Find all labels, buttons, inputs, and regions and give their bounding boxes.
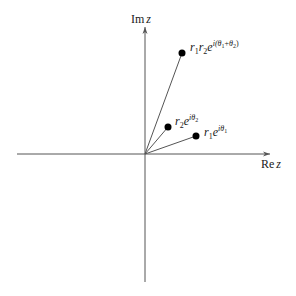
point-z2 <box>165 124 172 131</box>
vector-product <box>145 53 182 154</box>
label-z1: r1eiθ1 <box>204 124 227 141</box>
point-z1 <box>193 133 200 140</box>
imaginary-axis-label: Imz <box>131 12 151 26</box>
label-z2: r2eiθ2 <box>175 113 198 130</box>
label-product: r1r2ei(θ1+θ2) <box>190 39 239 56</box>
complex-plane-diagram: Rez Imz r1eiθ1 r2eiθ2 r1r2ei(θ1+θ2) <box>0 0 296 296</box>
real-axis-label: Rez <box>261 157 281 171</box>
point-product <box>179 50 186 57</box>
